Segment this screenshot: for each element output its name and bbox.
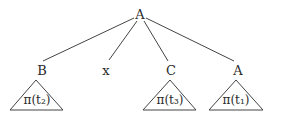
edge-root-a [146, 18, 234, 61]
tree-diagram: A B x C A π(t₂) π(t₃) π(t₁) [0, 0, 281, 120]
subtree-label: π(t₃) [157, 93, 184, 107]
subtree-label: π(t₁) [223, 93, 250, 107]
child-node-c: C [166, 63, 176, 78]
edges [43, 18, 234, 61]
child-node-a: A [232, 63, 243, 78]
subtree-b: π(t₂) [10, 80, 63, 110]
child-node-b: B [37, 63, 47, 78]
edge-root-x [109, 21, 137, 60]
edge-root-b [43, 18, 134, 61]
child-node-x: x [102, 63, 110, 78]
root-node: A [134, 7, 145, 22]
subtree-label: π(t₂) [24, 93, 51, 107]
subtree-c: π(t₃) [143, 80, 196, 110]
subtree-a: π(t₁) [209, 80, 263, 110]
